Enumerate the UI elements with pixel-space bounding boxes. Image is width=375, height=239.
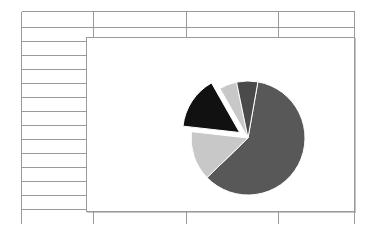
embedded-chart-object[interactable]: [86, 37, 355, 212]
spreadsheet-application: [0, 0, 375, 239]
pie-chart[interactable]: [87, 38, 354, 211]
